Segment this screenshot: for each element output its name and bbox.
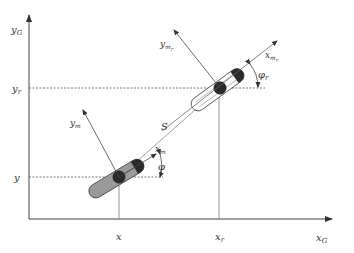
ym-label: ym [69, 118, 81, 129]
phir-arc [250, 64, 258, 87]
robot-pose-diagram: yG xG y yr x xr ym xm φ S ymr xmr φr [0, 0, 354, 253]
x-global-label: xG [316, 232, 328, 245]
phir-label: φr [258, 69, 269, 82]
y-global-label: yG [10, 24, 23, 37]
distance-s-label: S [161, 121, 168, 132]
robot-current [83, 110, 162, 201]
ymr-label: ymr [159, 39, 174, 52]
xmr-axis [162, 41, 277, 131]
yr-tick-label: yr [11, 83, 22, 96]
labels: yG xG y yr x xr ym xm φ S ymr xmr φr [10, 24, 328, 245]
xm-label: xm [155, 144, 166, 155]
ym-axis [83, 110, 119, 177]
x-tick-label: x [116, 231, 122, 242]
xmr-label: xmr [265, 50, 279, 63]
y-tick-label: y [13, 172, 20, 183]
robot-reference [162, 30, 277, 131]
xr-tick-label: xr [215, 231, 225, 244]
projection-lines [29, 88, 265, 219]
phi-label: φ [158, 161, 165, 172]
ymr-axis [174, 30, 220, 88]
